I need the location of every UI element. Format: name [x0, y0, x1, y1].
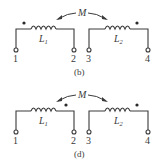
terminal-4: [146, 48, 150, 52]
inductor-label: L1: [38, 33, 48, 45]
diagram-d: M L1 1 2 L2 3 4 (d): [13, 89, 150, 159]
terminal-1: [14, 48, 18, 52]
terminal-1: [14, 130, 18, 134]
terminal-4: [146, 130, 150, 134]
mutual-label: M: [77, 7, 87, 18]
polarity-dot-icon: [135, 103, 138, 106]
polarity-dot-icon: [135, 21, 138, 24]
terminal-label-1: 1: [13, 53, 18, 64]
terminal-2: [72, 130, 76, 134]
arrow-head-right-icon: [102, 97, 108, 102]
inductor-label: L1: [38, 115, 48, 127]
mutual-arrow: M: [56, 7, 108, 20]
caption-b: (b): [74, 67, 85, 77]
arrow-head-left-icon: [56, 15, 62, 20]
arrow-head-left-icon: [56, 97, 62, 102]
inductor-label: L2: [113, 115, 124, 127]
inductor-l1: L1 1 2: [13, 103, 76, 146]
terminal-label-3: 3: [86, 135, 91, 146]
polarity-dot-icon: [64, 103, 67, 106]
terminal-label-2: 2: [71, 135, 76, 146]
mutual-label: M: [77, 89, 87, 100]
mutual-arrow: M: [56, 89, 108, 102]
inductor-l2: L2 3 4: [86, 21, 150, 64]
terminal-2: [72, 48, 76, 52]
terminal-label-4: 4: [145, 135, 150, 146]
coupled-inductors-figure: M L1 1 2 L2 3 4 (b): [0, 0, 165, 167]
inductor-l2: L2 3 4: [86, 103, 150, 146]
polarity-dot-icon: [22, 21, 25, 24]
inductor-label: L2: [113, 33, 124, 45]
terminal-3: [87, 48, 91, 52]
terminal-3: [87, 130, 91, 134]
terminal-label-2: 2: [71, 53, 76, 64]
arrow-head-right-icon: [102, 15, 108, 20]
terminal-label-1: 1: [13, 135, 18, 146]
caption-d: (d): [74, 149, 85, 159]
terminal-label-4: 4: [145, 53, 150, 64]
terminal-label-3: 3: [86, 53, 91, 64]
diagram-b: M L1 1 2 L2 3 4 (b): [13, 7, 150, 77]
inductor-l1: L1 1 2: [13, 21, 76, 64]
